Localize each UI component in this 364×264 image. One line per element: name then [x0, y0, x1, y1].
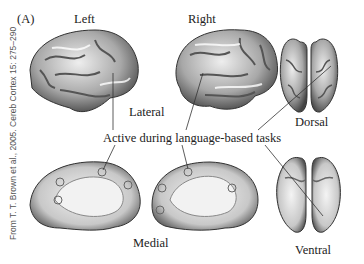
left-lateral-brain [30, 30, 138, 112]
panel-label: (A) [17, 12, 34, 27]
label-medial: Medial [133, 236, 168, 251]
label-lateral: Lateral [129, 105, 164, 120]
figure: (A) Left Right Lateral Dorsal Active dur… [0, 0, 364, 264]
figure-credit: From T. T. Brown et al., 2005. Cereb Cor… [8, 90, 18, 240]
label-right: Right [188, 12, 216, 27]
ventral-brain [277, 157, 341, 232]
label-ventral: Ventral [295, 243, 331, 258]
dorsal-brain [280, 39, 337, 112]
right-lateral-brain [176, 30, 278, 109]
label-dorsal: Dorsal [295, 115, 328, 130]
label-left: Left [74, 12, 95, 27]
left-medial-brain [30, 162, 140, 230]
callout-label: Active during language-based tasks [103, 131, 281, 146]
right-medial-brain [152, 162, 258, 230]
